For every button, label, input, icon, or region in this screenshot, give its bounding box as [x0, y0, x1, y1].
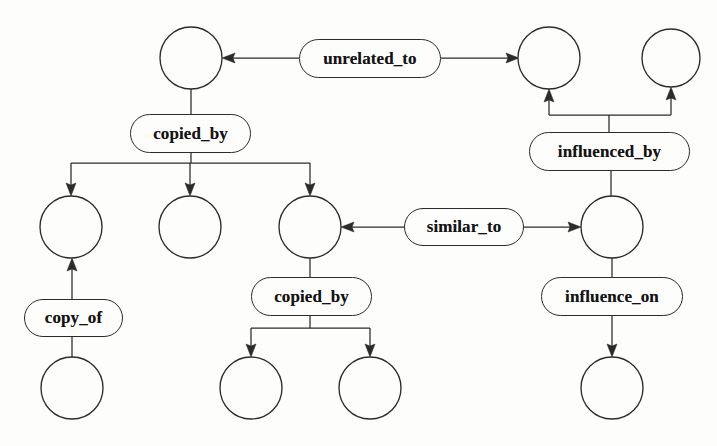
edge-label-influence-on-text: influence_on — [565, 286, 659, 306]
node-mid-left[interactable] — [40, 196, 102, 258]
node-mid-right[interactable] — [581, 196, 643, 258]
node-group — [40, 27, 700, 419]
arrowhead-copied-by-drop-1 — [66, 183, 76, 196]
arrowhead-unrelated-to-right — [506, 53, 519, 63]
edge-label-copied-by-mid[interactable]: copied_by — [251, 277, 372, 316]
node-mid-center[interactable] — [279, 196, 341, 258]
arrowhead-influenced-by-1 — [544, 89, 554, 102]
arrowhead-copied-by-mid-drop-2 — [365, 344, 375, 357]
edge-label-similar-to[interactable]: similar_to — [404, 208, 524, 246]
arrowhead-copied-by-drop-2 — [185, 183, 195, 196]
arrowhead-copied-by-drop-3 — [305, 183, 315, 196]
arrowhead-similar-to-right — [568, 222, 581, 232]
node-bottom-left[interactable] — [41, 357, 103, 419]
arrowhead-unrelated-to-left — [222, 53, 235, 63]
node-top-right-a[interactable] — [518, 27, 580, 89]
edge-label-influenced-by[interactable]: influenced_by — [529, 132, 690, 171]
node-bottom-right[interactable] — [581, 357, 643, 419]
arrowhead-influence-on — [607, 344, 617, 357]
edge-label-influenced-by-text: influenced_by — [558, 141, 661, 161]
node-bottom-center-right[interactable] — [339, 357, 401, 419]
edge-label-copied-by-mid-text: copied_by — [274, 286, 349, 306]
arrowhead-copy-of — [67, 258, 77, 271]
arrowhead-influenced-by-2 — [666, 87, 676, 100]
node-top-right-b[interactable] — [642, 29, 700, 87]
arrowhead-copied-by-mid-drop-1 — [246, 344, 256, 357]
edge-label-unrelated-to-text: unrelated_to — [323, 48, 416, 68]
edge-label-copied-by-top[interactable]: copied_by — [130, 114, 251, 153]
node-mid-center-left[interactable] — [159, 196, 221, 258]
edge-label-copy-of[interactable]: copy_of — [24, 299, 123, 337]
arrowhead-similar-to-left — [341, 222, 354, 232]
edge-label-unrelated-to[interactable]: unrelated_to — [299, 39, 441, 78]
edge-label-similar-to-text: similar_to — [427, 217, 502, 237]
node-top-left[interactable] — [160, 27, 222, 89]
edge-label-copy-of-text: copy_of — [45, 308, 102, 328]
edge-label-influence-on[interactable]: influence_on — [541, 277, 683, 316]
diagram-canvas: unrelated_to copied_by influenced_by sim… — [0, 0, 717, 446]
edge-label-copied-by-top-text: copied_by — [153, 123, 228, 143]
node-bottom-center-left[interactable] — [220, 357, 282, 419]
